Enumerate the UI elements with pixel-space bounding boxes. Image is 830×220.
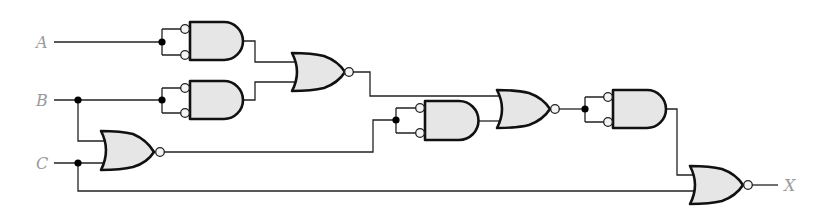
inverter-bubble: [181, 25, 190, 34]
and-gate-2: [181, 81, 243, 119]
and-gate-3: [416, 101, 479, 140]
input-label-a: A: [34, 33, 48, 52]
input-label-b: B: [35, 91, 48, 110]
inverter-bubble: [345, 68, 354, 77]
output-label-x: X: [782, 176, 796, 195]
logic-circuit-diagram: A B C X: [0, 0, 830, 220]
nor-gate-3: [497, 90, 559, 128]
inverter-bubble: [604, 93, 613, 102]
inverter-bubble: [551, 105, 560, 114]
inverter-bubble: [416, 129, 425, 138]
inverter-bubble: [416, 104, 425, 113]
inverter-bubble: [181, 109, 190, 118]
and-gate-4: [604, 90, 666, 128]
inverter-bubble: [181, 51, 190, 60]
junction-nor3-out: [581, 105, 588, 112]
junction-nor2-out: [392, 116, 399, 123]
junction-a: [158, 38, 165, 45]
inverter-bubble: [181, 84, 190, 93]
junction-b-left: [74, 96, 81, 103]
input-label-c: C: [36, 154, 48, 173]
nor-gate-output: [690, 166, 752, 204]
nor-gate-2: [101, 131, 164, 170]
inverter-bubble: [744, 181, 753, 190]
junction-c: [74, 159, 81, 166]
nor-gate-1: [292, 53, 353, 91]
inverter-bubble: [156, 148, 165, 157]
junction-b-right: [158, 96, 165, 103]
and-gate-1: [181, 22, 243, 60]
inverter-bubble: [604, 118, 613, 127]
